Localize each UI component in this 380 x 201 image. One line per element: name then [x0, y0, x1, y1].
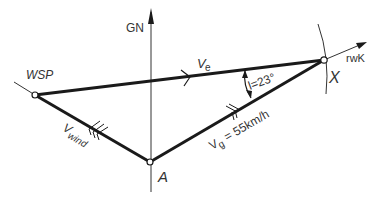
- start-extension-line: [14, 82, 35, 95]
- svg-text:e: e: [205, 62, 211, 73]
- north-arrow-icon: [148, 8, 154, 24]
- airspeed-vector-line: [35, 60, 324, 95]
- wind-vector-line: [35, 95, 150, 162]
- track-course-label: rwK: [346, 52, 366, 64]
- north-axis-label: GN: [126, 21, 144, 35]
- start-point-label: WSP: [26, 68, 53, 82]
- wind-point-label: A: [157, 168, 168, 185]
- svg-text:= 55km/h: = 55km/h: [219, 107, 272, 146]
- target-point-marker: [321, 57, 327, 63]
- wind-point-marker: [147, 159, 153, 165]
- airspeed-vector-label: V e: [197, 56, 211, 73]
- ground-vector-label: V g = 55km/h: [207, 107, 273, 154]
- start-point-marker: [32, 92, 38, 98]
- track-course-arrow-icon: [356, 42, 367, 49]
- wind-triangle-diagram: GN rwK l=23° WSP X A V e: [0, 0, 380, 201]
- ground-vector-line: [150, 60, 324, 162]
- svg-text:wind: wind: [66, 130, 90, 150]
- target-point-label: X: [328, 69, 341, 86]
